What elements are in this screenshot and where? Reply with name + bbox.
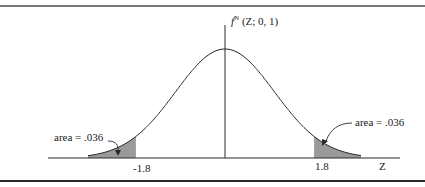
- tick-label-neg: -1.8: [133, 162, 150, 174]
- tick-label-pos: 1.8: [315, 160, 329, 172]
- right-area-arrow: [326, 123, 352, 141]
- right-area-label: area = .036: [355, 116, 404, 128]
- left-area-label: area = .036: [54, 131, 103, 143]
- normal-distribution-figure: [0, 0, 425, 187]
- function-label: fN (Z; 0, 1): [231, 14, 278, 27]
- z-axis-label: Z: [379, 160, 386, 172]
- function-args: (Z; 0, 1): [239, 15, 278, 27]
